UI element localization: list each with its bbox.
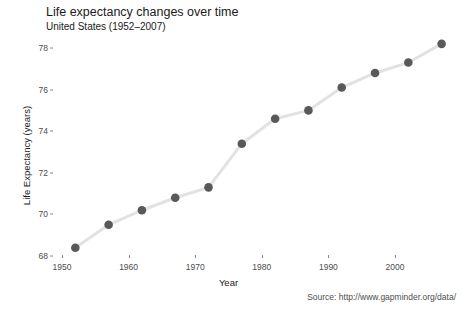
- data-point: [204, 183, 213, 192]
- data-point: [238, 139, 247, 148]
- data-point: [437, 40, 446, 49]
- data-line: [75, 44, 441, 248]
- data-point: [404, 58, 413, 67]
- data-point: [71, 243, 80, 252]
- chart-caption: Source: http://www.gapminder.org/data/: [307, 292, 456, 302]
- data-point: [138, 206, 147, 215]
- chart-figure: Life expectancy changes over time United…: [0, 0, 462, 312]
- data-point: [271, 114, 280, 123]
- data-point: [337, 83, 346, 92]
- plot-area: [0, 0, 462, 312]
- data-point: [104, 221, 113, 230]
- data-point: [371, 69, 380, 78]
- data-points: [71, 40, 446, 252]
- data-point: [171, 193, 180, 202]
- data-point: [304, 106, 313, 115]
